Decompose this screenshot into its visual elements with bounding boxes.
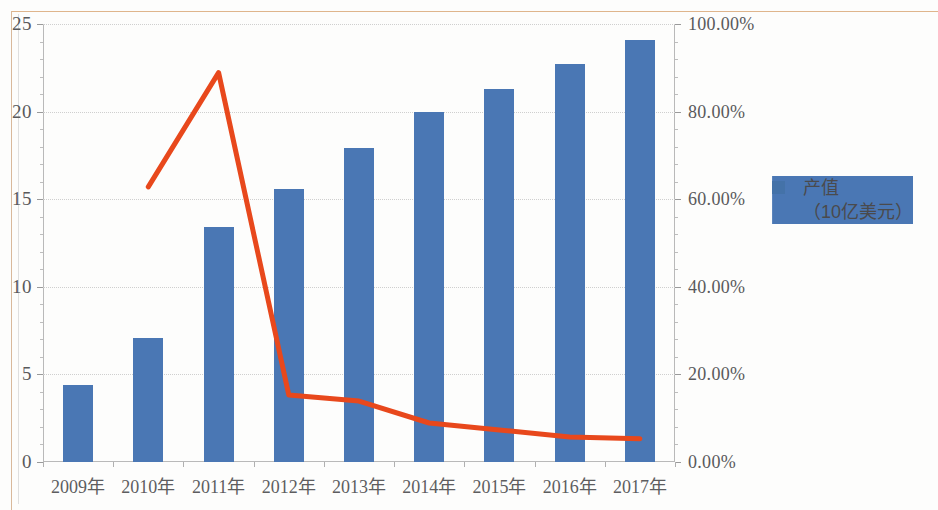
scan-artifact-top-border — [12, 11, 938, 12]
right-axis-tick-label: 40.00% — [688, 276, 745, 297]
right-axis-minor-tick — [675, 357, 678, 358]
left-axis-tick-label: 15 — [12, 188, 32, 210]
right-axis-minor-tick — [675, 304, 678, 305]
right-axis-tick — [675, 112, 681, 113]
right-axis-minor-tick — [675, 269, 678, 270]
right-axis-minor-tick — [675, 147, 678, 148]
x-axis-tick — [254, 462, 255, 467]
scan-artifact-left-border-secondary — [18, 14, 19, 504]
x-axis-label: 2009年 — [51, 472, 105, 498]
growth-rate-line — [148, 73, 640, 439]
x-axis-tick — [183, 462, 184, 467]
left-axis-tick-label: 0 — [22, 451, 32, 473]
right-axis-tick — [675, 24, 681, 25]
right-axis-minor-tick — [675, 59, 678, 60]
x-axis-label: 2017年 — [613, 472, 667, 498]
x-axis-tick — [113, 462, 114, 467]
right-axis-tick-label: 0.00% — [688, 452, 736, 473]
legend-label-sub: （10亿美元） — [803, 200, 913, 224]
right-axis-tick — [675, 199, 681, 200]
x-axis-label: 2013年 — [332, 472, 386, 498]
right-axis-minor-tick — [675, 252, 678, 253]
x-axis-tick — [464, 462, 465, 467]
legend-item-output-value-label: 产值 （10亿美元） — [803, 176, 913, 225]
x-axis-label: 2010年 — [121, 472, 175, 498]
right-axis-minor-tick — [675, 409, 678, 410]
x-axis-tick — [43, 462, 44, 467]
left-axis-tick-label: 25 — [12, 13, 32, 35]
left-axis-tick-label: 10 — [12, 276, 32, 298]
right-axis-tick — [675, 374, 681, 375]
right-axis-minor-tick — [675, 217, 678, 218]
chart-container: 0510152025 0.00%20.00%40.00%60.00%80.00%… — [0, 0, 938, 510]
x-axis-label: 2015年 — [472, 472, 526, 498]
left-axis-tick-label: 5 — [22, 363, 32, 385]
right-axis-minor-tick — [675, 42, 678, 43]
right-axis-minor-tick — [675, 182, 678, 183]
x-axis-tick — [394, 462, 395, 467]
square-marker-icon — [772, 181, 785, 194]
chart-legend: 产值 （10亿美元） 年增长率 — [772, 198, 932, 264]
x-axis-label: 2011年 — [192, 472, 245, 498]
legend-item-output-value[interactable]: 产值 （10亿美元） — [772, 176, 913, 225]
left-axis-tick-label: 20 — [12, 101, 32, 123]
right-axis-minor-tick — [675, 164, 678, 165]
right-axis-minor-tick — [675, 234, 678, 235]
scan-artifact-left-border — [11, 11, 12, 510]
right-axis-tick-label: 80.00% — [688, 101, 745, 122]
x-axis-label: 2012年 — [262, 472, 316, 498]
right-axis-minor-tick — [675, 339, 678, 340]
x-axis-tick — [605, 462, 606, 467]
right-axis-minor-tick — [675, 94, 678, 95]
x-axis-label: 2016年 — [543, 472, 597, 498]
right-axis-minor-tick — [675, 77, 678, 78]
x-axis-label: 2014年 — [402, 472, 456, 498]
right-axis-minor-tick — [675, 427, 678, 428]
x-axis-tick — [324, 462, 325, 467]
plot-area: 0510152025 0.00%20.00%40.00%60.00%80.00%… — [43, 24, 675, 462]
legend-label-main: 产值 — [803, 178, 839, 198]
line-series-growth-rate — [43, 24, 675, 462]
right-axis-tick-label: 60.00% — [688, 189, 745, 210]
x-axis-tick — [675, 462, 676, 467]
right-axis-minor-tick — [675, 444, 678, 445]
right-axis-minor-tick — [675, 129, 678, 130]
right-axis-minor-tick — [675, 322, 678, 323]
right-axis-tick — [675, 287, 681, 288]
x-axis-tick — [535, 462, 536, 467]
right-axis-minor-tick — [675, 392, 678, 393]
right-axis-tick-label: 20.00% — [688, 364, 745, 385]
right-axis-tick-label: 100.00% — [688, 14, 755, 35]
